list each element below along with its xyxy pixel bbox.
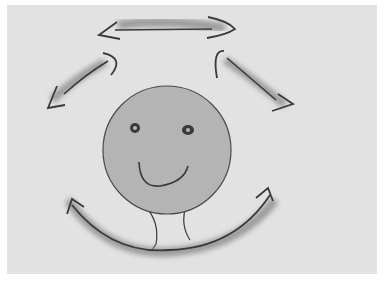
head-movement-diagram	[0, 0, 385, 283]
upper-right-arrow-icon	[216, 51, 293, 111]
smiling-face	[103, 86, 231, 214]
upper-left-arrow-icon	[48, 53, 116, 108]
top-double-arrow-icon	[99, 17, 235, 39]
